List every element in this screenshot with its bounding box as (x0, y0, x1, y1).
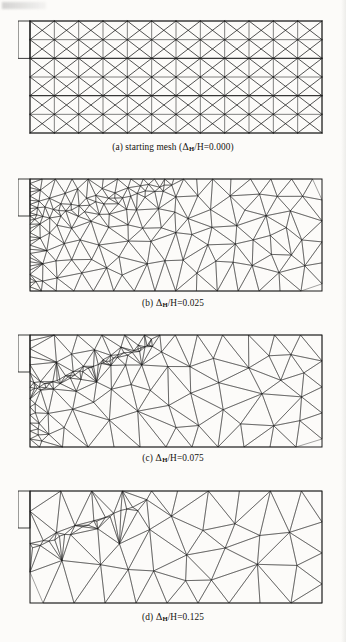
caption-a: (a) starting mesh (ΔH/H=0.000) (0, 141, 346, 152)
caption-b: (b) ΔH/H=0.025 (0, 297, 346, 308)
scan-edge-shading (341, 0, 346, 642)
delta-symbol-a: Δ (182, 141, 189, 152)
caption-c: (c) ΔH/H=0.075 (0, 452, 346, 463)
caption-b-head: (b) (142, 298, 156, 308)
mesh-figure-b (18, 175, 328, 293)
scan-artifact (2, 2, 46, 9)
caption-a-head: (a) starting mesh ( (112, 142, 182, 152)
caption-c-head: (c) (142, 453, 155, 463)
caption-d-head: (d) (142, 612, 156, 622)
caption-b-tail: /H=0.025 (168, 298, 204, 308)
mesh-figure-d (18, 487, 328, 605)
caption-d-tail: /H=0.125 (168, 612, 204, 622)
mesh-figure-a (18, 17, 328, 137)
caption-c-tail: /H=0.075 (167, 453, 203, 463)
mesh-figure-c (18, 331, 328, 449)
caption-a-tail: /H=0.000) (194, 142, 233, 152)
figure-page: (a) starting mesh (ΔH/H=0.000) (b) ΔH/H=… (0, 0, 346, 642)
caption-d: (d) ΔH/H=0.125 (0, 611, 346, 622)
